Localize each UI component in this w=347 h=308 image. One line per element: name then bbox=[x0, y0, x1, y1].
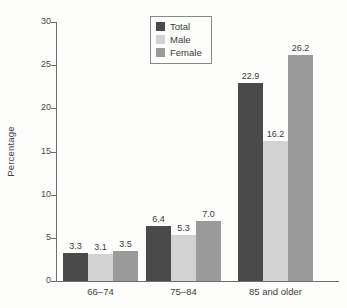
y-tick-label: 15 bbox=[25, 147, 51, 156]
y-tick-label: 25 bbox=[25, 60, 51, 69]
bar-value-label: 3.3 bbox=[69, 241, 82, 251]
bar-value-label: 7.0 bbox=[202, 209, 215, 219]
x-category-label: 66–74 bbox=[87, 286, 113, 298]
bar[interactable] bbox=[113, 251, 138, 281]
bar[interactable] bbox=[63, 253, 88, 281]
legend-label: Total bbox=[170, 22, 190, 32]
y-tick-label: 20 bbox=[25, 103, 51, 112]
x-category-label: 75–84 bbox=[170, 286, 196, 298]
y-tick-label: 0 bbox=[25, 276, 51, 285]
bar[interactable] bbox=[88, 254, 113, 281]
bar[interactable] bbox=[196, 221, 221, 281]
legend-item[interactable]: Total bbox=[156, 20, 202, 33]
bar-value-label: 5.3 bbox=[177, 223, 190, 233]
bar-slot: 22.9 bbox=[238, 22, 263, 281]
bar[interactable] bbox=[146, 226, 171, 281]
legend-swatch-icon bbox=[156, 35, 165, 44]
legend-label: Male bbox=[170, 35, 191, 45]
bar-value-label: 3.1 bbox=[94, 242, 107, 252]
y-tick-label: 10 bbox=[25, 190, 51, 199]
bar-value-label: 3.5 bbox=[119, 239, 132, 249]
bar-chart: Percentage 051015202530 3.33.13.56.45.37… bbox=[0, 0, 347, 308]
bar[interactable] bbox=[288, 55, 313, 281]
bar-slot: 26.2 bbox=[288, 22, 313, 281]
legend-label: Female bbox=[170, 48, 202, 58]
bar-value-label: 22.9 bbox=[242, 71, 260, 81]
chart-legend: TotalMaleFemale bbox=[150, 16, 212, 64]
bar-group: 3.33.13.5 bbox=[63, 22, 138, 281]
legend-item[interactable]: Female bbox=[156, 46, 202, 59]
y-tick-label: 30 bbox=[25, 17, 51, 26]
x-category-label: 85 and older bbox=[249, 286, 302, 298]
y-tick-label: 5 bbox=[25, 233, 51, 242]
bar-value-label: 26.2 bbox=[292, 43, 310, 53]
bar[interactable] bbox=[171, 235, 196, 281]
bar-group: 22.916.226.2 bbox=[238, 22, 313, 281]
bar[interactable] bbox=[238, 83, 263, 281]
bar[interactable] bbox=[263, 141, 288, 281]
bar-slot: 3.1 bbox=[88, 22, 113, 281]
legend-item[interactable]: Male bbox=[156, 33, 202, 46]
legend-swatch-icon bbox=[156, 22, 165, 31]
y-axis-title: Percentage bbox=[4, 22, 18, 281]
bar-slot: 16.2 bbox=[263, 22, 288, 281]
x-axis-line bbox=[56, 281, 339, 282]
bar-slot: 3.5 bbox=[113, 22, 138, 281]
bar-slot: 3.3 bbox=[63, 22, 88, 281]
legend-swatch-icon bbox=[156, 48, 165, 57]
bar-value-label: 16.2 bbox=[267, 129, 285, 139]
bar-value-label: 6.4 bbox=[152, 214, 165, 224]
